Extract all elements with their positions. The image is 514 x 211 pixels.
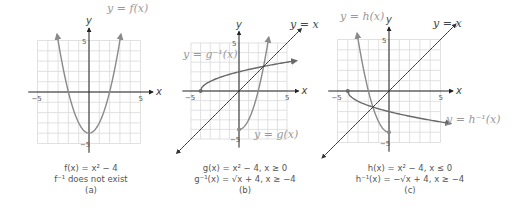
tick-label-c: −5 <box>380 140 390 148</box>
tick-label-b: −5 <box>185 94 195 102</box>
tick-label-c: −5 <box>332 94 342 102</box>
caption-a: f(x) = x² − 4 f⁻¹ does not exist (a) <box>6 163 176 196</box>
caption-c-formula: h(x) = x² − 4, x ≤ 0 <box>325 163 495 174</box>
tick-label-a: 5 <box>82 38 86 46</box>
tick-label-a: −5 <box>32 95 42 103</box>
caption-c: h(x) = x² − 4, x ≤ 0 h⁻¹(x) = −√x + 4, x… <box>325 163 495 196</box>
graph-panel-c: xy−555−5y = h(x)y = h⁻¹(x)y = x <box>322 10 500 158</box>
caption-b: g(x) = x² − 4, x ≥ 0 g⁻¹(x) = √x + 4, x … <box>160 163 330 196</box>
y-axis-label-b: y <box>235 19 243 30</box>
graph-panel-a: xy−555−5y = f(x) <box>28 2 162 153</box>
function-label-b: y = g(x) <box>253 128 298 141</box>
caption-a-tag: (a) <box>6 185 176 196</box>
tick-label-b: 5 <box>232 40 236 48</box>
x-axis-label-b: x <box>300 85 307 96</box>
caption-a-note: f⁻¹ does not exist <box>6 174 176 185</box>
tick-label-a: 5 <box>139 95 143 103</box>
curve-b <box>239 37 269 129</box>
y-axis-label-a: y <box>85 15 93 26</box>
y-axis-label-c: y <box>385 14 393 25</box>
tick-label-c: 5 <box>439 94 443 102</box>
caption-a-formula: f(x) = x² − 4 <box>6 163 176 174</box>
endpoint-dot-b <box>199 89 203 93</box>
caption-c-inverse: h⁻¹(x) = −√x + 4, x ≥ −4 <box>325 174 495 185</box>
endpoint-dot-c <box>346 89 350 93</box>
inverse-label-c: y = h⁻¹(x) <box>445 113 501 126</box>
endpoint-dot-b <box>237 127 241 131</box>
identity-label-c: y = x <box>432 17 462 30</box>
caption-b-inverse: g⁻¹(x) = √x + 4, x ≥ −4 <box>160 174 330 185</box>
graph-panel-b: xy−555−5y = g(x)y = g⁻¹(x)y = x <box>177 18 320 153</box>
endpoint-dot-c <box>387 130 391 134</box>
function-label-c: y = h(x) <box>339 10 384 23</box>
tick-label-c: 5 <box>382 37 386 45</box>
tick-label-b: 5 <box>285 94 289 102</box>
function-label-a: y = f(x) <box>106 2 148 15</box>
x-axis-label-c: x <box>455 85 462 96</box>
inverse-label-b: y = g⁻¹(x) <box>182 48 237 61</box>
caption-b-formula: g(x) = x² − 4, x ≥ 0 <box>160 163 330 174</box>
curve-c <box>357 33 389 132</box>
tick-label-b: −5 <box>230 136 240 144</box>
x-axis-label-a: x <box>155 86 162 97</box>
tick-label-a: −5 <box>80 141 90 149</box>
caption-b-tag: (b) <box>160 185 330 196</box>
caption-c-tag: (c) <box>325 185 495 196</box>
identity-label-b: y = x <box>289 18 319 31</box>
